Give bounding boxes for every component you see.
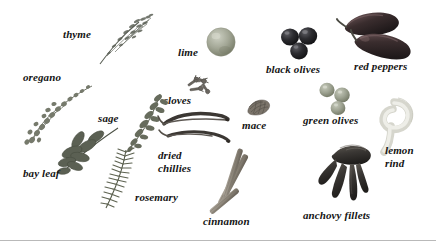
- anchovy-fillets-bundle-icon: [316, 142, 380, 204]
- mace-blade-icon: [244, 96, 274, 120]
- lime-fruit-icon: [205, 26, 239, 60]
- thyme-illustration: [95, 8, 155, 68]
- label-green-olives: green olives: [303, 114, 358, 127]
- label-red-peppers: red peppers: [354, 60, 407, 73]
- label-anchovy-fillets: anchovy fillets: [303, 209, 370, 222]
- label-mace: mace: [242, 119, 266, 132]
- ingredients-reference-plate: thyme lime: [0, 0, 436, 241]
- label-rosemary: rosemary: [135, 191, 178, 204]
- label-black-olives: black olives: [266, 63, 320, 76]
- cinnamon-illustration: [204, 152, 266, 214]
- lime-illustration: [205, 26, 239, 60]
- dried-chillies-illustration: [158, 108, 230, 148]
- red-peppers-illustration: [336, 10, 428, 62]
- dried-chillies-pair-icon: [158, 108, 230, 148]
- label-lemon-rind: lemon rind: [385, 144, 414, 169]
- red-peppers-pair-icon: [336, 10, 428, 62]
- black-olives-illustration: [278, 26, 326, 64]
- black-olives-cluster-icon: [278, 26, 326, 64]
- label-lime: lime: [178, 46, 198, 59]
- mace-illustration: [244, 96, 274, 120]
- thyme-sprig-icon: [95, 8, 155, 68]
- label-sage: sage: [98, 112, 119, 125]
- label-cinnamon: cinnamon: [203, 215, 250, 228]
- label-thyme: thyme: [63, 28, 91, 41]
- label-oregano: oregano: [23, 71, 61, 84]
- cinnamon-sticks-icon: [204, 152, 266, 214]
- label-bay-leaf: bay leaf: [23, 167, 60, 180]
- label-dried-chillies: dried chillies: [158, 149, 191, 174]
- anchovy-fillets-illustration: [316, 142, 380, 204]
